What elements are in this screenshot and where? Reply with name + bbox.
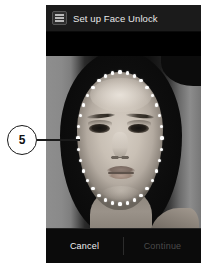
camera-preview [46, 56, 201, 228]
page-title: Set up Face Unlock [73, 13, 158, 24]
action-button-bar: Cancel Continue [46, 228, 201, 263]
settings-icon [52, 11, 67, 25]
title-bar: Set up Face Unlock [46, 5, 201, 32]
callout-marker-5: 5 [7, 125, 37, 155]
title-gap-spacer [46, 32, 201, 56]
phone-screenshot-window: Set up Face Unlock Cancel Continue [46, 5, 201, 263]
eye-right [128, 124, 149, 133]
cancel-button[interactable]: Cancel [46, 242, 123, 251]
nostrils [111, 155, 129, 160]
eye-left [89, 124, 110, 133]
chin-highlight [102, 186, 140, 202]
callout-number: 5 [19, 134, 26, 146]
forehead-highlight [90, 78, 152, 112]
continue-button[interactable]: Continue [124, 242, 201, 251]
lip-line [108, 172, 134, 174]
callout-leader-line [37, 139, 80, 141]
